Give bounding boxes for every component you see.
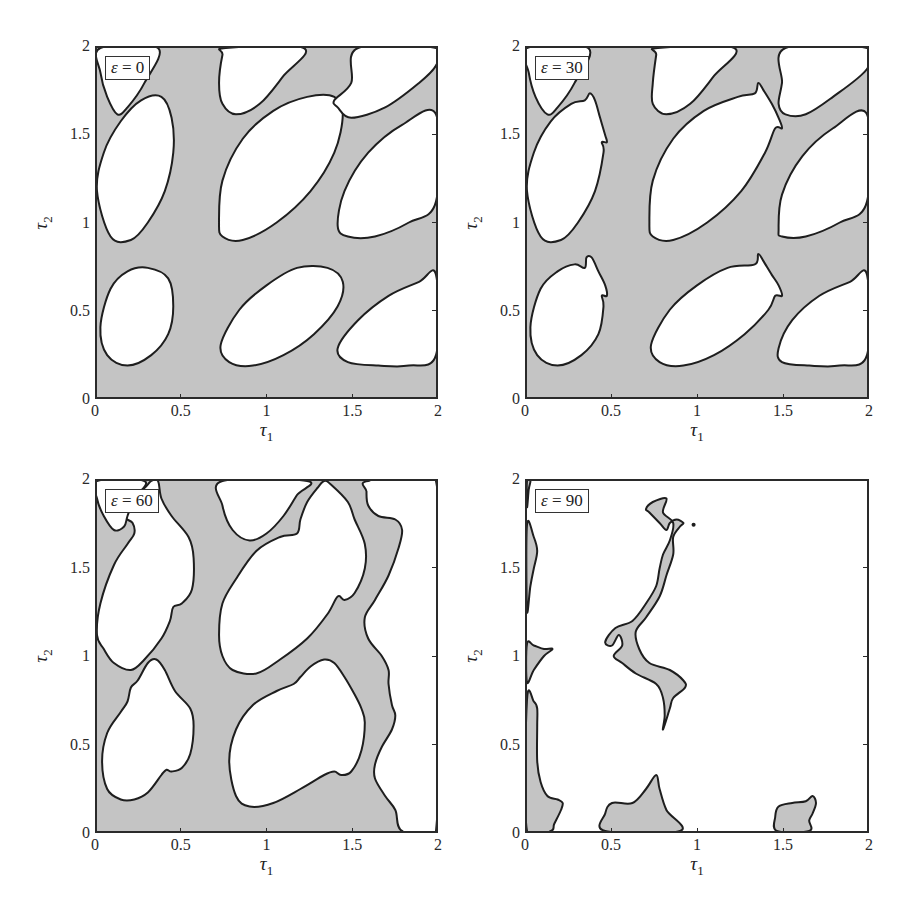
plot-area: ε = 30 [525,46,869,399]
legend-symbol: ε [111,58,118,77]
y-tick-label: 2 [82,471,90,487]
x-tick-mark [611,394,612,398]
contour-plot [97,48,436,397]
y-tick-label: 2 [82,38,90,54]
right-tick-mark [863,134,867,135]
x-tick-label: 0.5 [601,837,621,853]
right-tick-mark [432,744,436,745]
y-tick-label: 1.5 [500,560,520,576]
y-axis-label: τ2 [30,216,56,229]
right-tick-mark [432,656,436,657]
right-tick-mark [863,656,867,657]
y-tick-label: 1.5 [70,126,90,142]
y-tick-label: 0.5 [500,303,520,319]
y-tick-label: 2 [512,471,520,487]
y-tick-label: 0 [512,825,520,841]
y-tick-label: 0.5 [70,737,90,753]
x-tick-mark [611,828,612,832]
plot-area: ε = 0 [95,46,438,399]
right-tick-mark [432,567,436,568]
contour-plot [97,481,436,831]
legend-value: 0 [136,58,145,77]
y-axis-label: τ2 [30,649,56,662]
x-axis-label: τ1 [260,853,273,879]
x-axis-label: τ1 [690,419,703,445]
right-tick-mark [432,134,436,135]
legend-equals: = [118,491,136,510]
contour-plot [527,48,867,397]
right-tick-mark [863,310,867,311]
legend-symbol: ε [111,491,118,510]
x-tick-label: 0 [521,837,529,853]
legend-symbol: ε [541,491,548,510]
y-tick-label: 1 [512,648,520,664]
legend-box: ε = 60 [105,489,159,513]
y-tick-label: 1.5 [500,126,520,142]
y-tick-label: 1 [82,648,90,664]
x-tick-label: 2 [865,403,873,419]
x-tick-label: 0 [91,837,99,853]
x-tick-label: 2 [434,403,442,419]
x-tick-mark [783,828,784,832]
right-tick-mark [863,567,867,568]
x-tick-label: 1.5 [773,837,793,853]
x-tick-label: 1.5 [342,837,362,853]
x-tick-label: 0 [521,403,529,419]
x-tick-mark [697,828,698,832]
x-tick-mark [180,828,181,832]
y-tick-label: 0 [82,391,90,407]
x-tick-label: 1.5 [342,403,362,419]
x-axis-label: τ1 [690,853,703,879]
x-tick-mark [352,394,353,398]
legend-box: ε = 30 [535,56,589,80]
contour-plot [527,481,867,831]
x-tick-label: 1 [263,837,271,853]
legend-value: 30 [566,58,583,77]
legend-value: 90 [566,491,583,510]
y-tick-label: 1 [82,215,90,231]
plot-area: ε = 60 [95,479,438,833]
right-tick-mark [863,744,867,745]
legend-symbol: ε [541,58,548,77]
legend-equals: = [118,58,136,77]
right-tick-mark [432,310,436,311]
legend-box: ε = 90 [535,489,589,513]
x-tick-mark [266,394,267,398]
legend-box: ε = 0 [105,56,150,80]
x-tick-mark [266,828,267,832]
x-tick-mark [352,828,353,832]
x-tick-label: 1 [693,837,701,853]
y-tick-label: 2 [512,38,520,54]
y-axis-label: τ2 [460,649,486,662]
y-tick-label: 0 [82,825,90,841]
right-tick-mark [863,222,867,223]
x-tick-mark [180,394,181,398]
x-tick-label: 2 [434,837,442,853]
y-tick-label: 0 [512,391,520,407]
x-tick-label: 1.5 [773,403,793,419]
x-axis-label: τ1 [260,419,273,445]
x-tick-label: 0 [91,403,99,419]
x-tick-label: 1 [263,403,271,419]
x-tick-label: 0.5 [171,837,191,853]
x-tick-label: 2 [865,837,873,853]
y-axis-label: τ2 [460,216,486,229]
plot-area: ε = 90 [525,479,869,833]
right-tick-mark [432,222,436,223]
x-tick-mark [697,394,698,398]
y-tick-label: 1 [512,215,520,231]
y-tick-label: 0.5 [500,737,520,753]
y-tick-label: 0.5 [70,303,90,319]
x-tick-label: 0.5 [601,403,621,419]
x-tick-label: 1 [693,403,701,419]
legend-value: 60 [136,491,153,510]
x-tick-label: 0.5 [171,403,191,419]
legend-equals: = [548,491,566,510]
y-tick-label: 1.5 [70,560,90,576]
legend-equals: = [548,58,566,77]
x-tick-mark [783,394,784,398]
